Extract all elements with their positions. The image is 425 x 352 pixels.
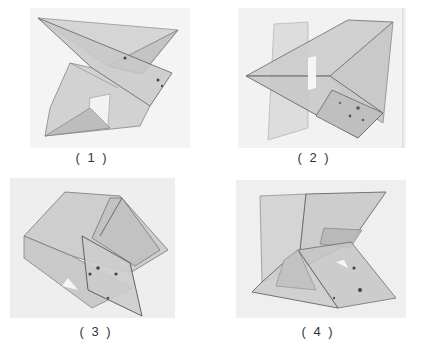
figure-2-photo [238, 8, 406, 148]
polyhedron-model-2 [238, 8, 406, 148]
figure-2-caption: ( 2 ) [284, 150, 344, 165]
polyhedron-model-1 [30, 8, 190, 148]
polyhedron-model-4 [236, 180, 406, 318]
figure-4-caption: ( 4 ) [288, 324, 348, 339]
figure-3-photo [10, 178, 175, 318]
figure-3-caption: ( 3 ) [66, 324, 126, 339]
figure-1-caption: ( 1 ) [62, 150, 122, 165]
figure-1-photo [30, 8, 190, 148]
figure-4-photo [236, 180, 406, 318]
polyhedron-model-3 [10, 178, 175, 318]
